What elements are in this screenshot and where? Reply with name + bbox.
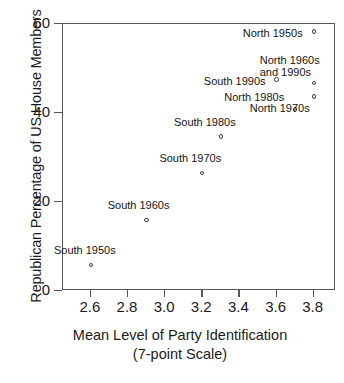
data-point-label: North 1950s [243,28,303,40]
data-point [312,29,316,33]
data-point [219,134,223,138]
y-axis-tick [54,290,62,291]
y-axis-title: Republican Percentage of US House Member… [28,6,44,306]
data-point-label: South 1960s [108,200,170,212]
data-point-label: North 1960s and 1990s [260,55,320,78]
data-point-label: South 1990s [204,76,266,88]
data-point [89,263,93,267]
x-axis-title: Mean Level of Party Identification (7-po… [30,326,330,364]
data-point-label: South 1950s [54,245,116,257]
y-axis-tick-label: 60 [0,15,50,30]
scatter-chart-figure: Republican Percentage of US House Member… [0,0,344,383]
data-point-label: South 1970s [159,153,221,165]
x-axis-tick-label: 3.8 [291,299,335,315]
y-axis-tick [54,112,62,113]
figure-caption-cutoff [8,370,338,382]
plot-area: South 1950sSouth 1960sSouth 1970sSouth 1… [62,23,335,290]
x-axis-tick [90,290,91,297]
x-axis-tick [238,290,239,297]
x-axis-tick [276,290,277,297]
y-axis-tick [54,201,62,202]
data-point-label: North 1970s [250,103,310,115]
data-point [200,171,204,175]
x-axis-tick [201,290,202,297]
y-axis-tick [54,23,62,24]
x-axis-title-line1: Mean Level of Party Identification [73,327,287,343]
data-point [312,81,316,85]
data-point [312,94,316,98]
y-axis-tick-label: 20 [0,193,50,208]
data-point-label: South 1980s [174,117,236,129]
x-axis-tick [127,290,128,297]
y-axis-tick-label: 0 [0,282,50,297]
y-axis-tick-label: 40 [0,104,50,119]
x-axis-tick [164,290,165,297]
data-point [144,218,148,222]
x-axis-title-line2: (7-point Scale) [30,345,330,364]
x-axis-tick [313,290,314,297]
